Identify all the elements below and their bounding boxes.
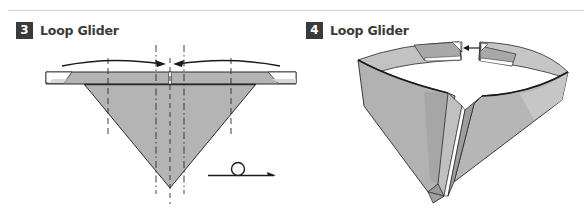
right-curved-arrow-icon (177, 60, 280, 66)
right-wall (454, 72, 568, 182)
keel-right (448, 96, 482, 196)
step-3-diagram (0, 0, 300, 222)
band-back-right (479, 42, 568, 78)
turn-over-loop-icon (208, 163, 276, 177)
triangle-body (84, 84, 256, 188)
left-wall (358, 60, 455, 192)
tuck-arrow-icon (463, 45, 479, 51)
band-back-left (358, 42, 461, 72)
left-curved-arrow-icon (62, 60, 162, 66)
keel-left (438, 93, 462, 196)
step-4-title: Loop Glider (330, 23, 409, 38)
step-4-header: 4 Loop Glider (306, 21, 409, 39)
step-4-number-badge: 4 (306, 22, 323, 39)
nose-tip (428, 192, 444, 203)
